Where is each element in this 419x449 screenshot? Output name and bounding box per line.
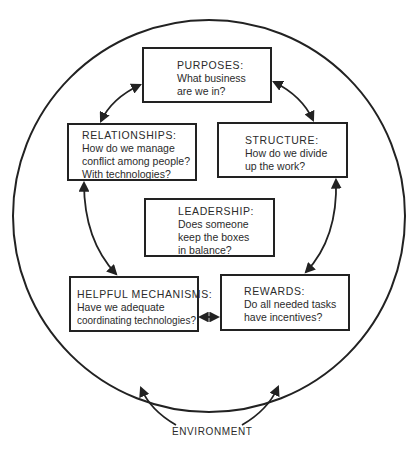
relationships-line: conflict among people? <box>82 155 190 168</box>
rewards-line: have incentives? <box>244 311 336 324</box>
rewards-line: Do all needed tasks <box>244 298 336 311</box>
arrow-purposes-structure <box>274 82 313 120</box>
relationships-line: With technologies? <box>82 168 190 181</box>
structure-line: How do we divide <box>245 147 327 160</box>
helpful-mechanisms-title: HELPFUL MECHANISMS: <box>77 288 212 301</box>
structure-box: STRUCTURE: How do we divide up the work? <box>217 122 348 178</box>
leadership-line: keep the boxes <box>178 231 254 244</box>
purposes-line: What business <box>177 72 246 85</box>
leadership-line: in balance? <box>178 244 254 257</box>
relationships-line: How do we manage <box>82 142 190 155</box>
arrow-structure-rewards <box>306 180 336 272</box>
purposes-box: PURPOSES: What business are we in? <box>142 47 272 103</box>
leadership-title: LEADERSHIP: <box>178 205 254 218</box>
relationships-box: RELATIONSHIPS: How do we manage conflict… <box>67 123 197 181</box>
arrow-relationships-helpful <box>84 183 116 274</box>
relationships-title: RELATIONSHIPS: <box>82 129 190 142</box>
arrow-purposes-relationships <box>101 85 140 121</box>
helpful-mechanisms-line: coordinating technologies? <box>77 314 212 327</box>
structure-title: STRUCTURE: <box>245 134 327 147</box>
arrow-environment-left <box>141 388 176 425</box>
helpful-mechanisms-line: Have we adequate <box>77 301 212 314</box>
environment-label: ENVIRONMENT <box>172 426 253 437</box>
structure-line: up the work? <box>245 160 327 173</box>
purposes-title: PURPOSES: <box>177 59 246 72</box>
leadership-box: LEADERSHIP: Does someone keep the boxes … <box>144 198 275 257</box>
rewards-title: REWARDS: <box>244 285 336 298</box>
rewards-box: REWARDS: Do all needed tasks have incent… <box>220 274 350 331</box>
helpful-mechanisms-box: HELPFUL MECHANISMS: Have we adequate coo… <box>69 276 199 332</box>
leadership-line: Does someone <box>178 218 254 231</box>
purposes-line: are we in? <box>177 85 246 98</box>
